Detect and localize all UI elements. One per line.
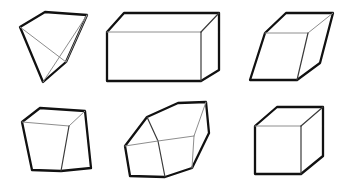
cube-outline: [255, 107, 323, 174]
tapered-block-outline: [22, 108, 91, 171]
shape-tapered-block: [22, 108, 91, 171]
shape-rectangular-box: [107, 13, 219, 81]
rectangular-box-outline: [107, 13, 219, 81]
shape-cube: [255, 107, 323, 174]
polyhedra-figure: [0, 0, 350, 188]
